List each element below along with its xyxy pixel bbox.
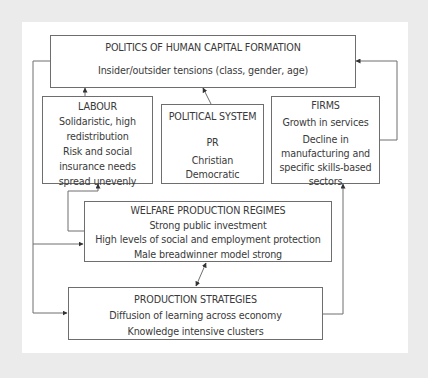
arrow-welfare-production-bidirectional [196, 263, 206, 286]
box-labour: LABOUR Solidaristic, high redistribution… [42, 96, 153, 184]
box-title: PRODUCTION STRATEGIES [69, 292, 322, 308]
box-line: Diffusion of learning across economy [69, 308, 322, 324]
arrow-political-system-to-politics [203, 88, 211, 104]
box-line: High levels of social and employment pro… [85, 233, 331, 248]
box-title: FIRMS [272, 99, 379, 113]
box-title: POLITICS OF HUMAN CAPITAL FORMATION [51, 41, 355, 54]
box-political-system: POLITICAL SYSTEM PR Christian Democratic [161, 104, 264, 184]
box-line: Democratic [162, 168, 263, 182]
box-welfare-production-regimes: WELFARE PRODUCTION REGIMES Strong public… [84, 201, 332, 262]
box-line: Strong public investment [85, 219, 331, 234]
box-title: WELFARE PRODUCTION REGIMES [85, 204, 331, 219]
box-line: Insider/outsider tensions (class, gender… [51, 64, 355, 77]
box-production-strategies: PRODUCTION STRATEGIES Diffusion of learn… [68, 287, 323, 340]
box-line: Knowledge intensive clusters [69, 324, 322, 340]
box-line: Christian [162, 154, 263, 168]
box-firms: FIRMS Growth in services Decline in manu… [271, 96, 380, 184]
box-line: spread unevenly [43, 174, 152, 189]
box-title: LABOUR [43, 99, 152, 114]
box-line: Decline in [272, 133, 379, 147]
box-line: Risk and social [43, 144, 152, 159]
box-line: insurance needs [43, 159, 152, 174]
box-line: sectors [272, 175, 379, 189]
box-line: specific skills-based [272, 161, 379, 175]
box-line: Solidaristic, high [43, 114, 152, 129]
box-politics-of-human-capital-formation: POLITICS OF HUMAN CAPITAL FORMATION Insi… [50, 35, 356, 88]
box-line: manufacturing and [272, 147, 379, 161]
box-line: Male breadwinner model strong [85, 248, 331, 263]
box-line: PR [162, 136, 263, 150]
box-title: POLITICAL SYSTEM [162, 110, 263, 124]
box-line: redistribution [43, 129, 152, 144]
box-line: Growth in services [272, 116, 379, 130]
